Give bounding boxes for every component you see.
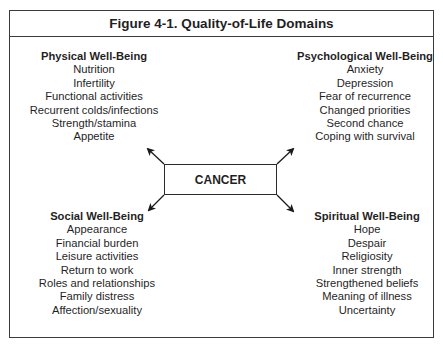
arrow-to-social-icon <box>149 195 164 210</box>
arrow-to-physical-icon <box>148 149 164 164</box>
arrow-to-psychological-icon <box>277 149 293 164</box>
arrows <box>0 0 443 344</box>
arrow-to-spiritual-icon <box>277 195 293 211</box>
